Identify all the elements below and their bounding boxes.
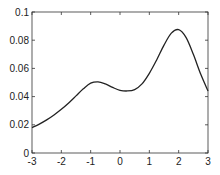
y-tick-label: 0 [23, 148, 29, 159]
x-tick-label: -1 [86, 156, 95, 167]
x-tick-label: -2 [57, 156, 66, 167]
x-tick-label: 1 [147, 156, 153, 167]
y-tick-label: 0.02 [10, 119, 30, 130]
y-tick-label: 0.06 [10, 63, 30, 74]
y-tick-label: 0.04 [10, 91, 30, 102]
y-tick-label: 0.1 [15, 7, 29, 18]
x-tick-label: 3 [205, 156, 211, 167]
x-tick-label: 2 [176, 156, 182, 167]
axes-box [32, 12, 208, 153]
line-chart: -3-2-10123 00.020.040.060.080.1 [0, 0, 220, 175]
x-tick-label: 0 [117, 156, 123, 167]
y-tick-label: 0.08 [10, 35, 30, 46]
density-curve [32, 29, 208, 127]
